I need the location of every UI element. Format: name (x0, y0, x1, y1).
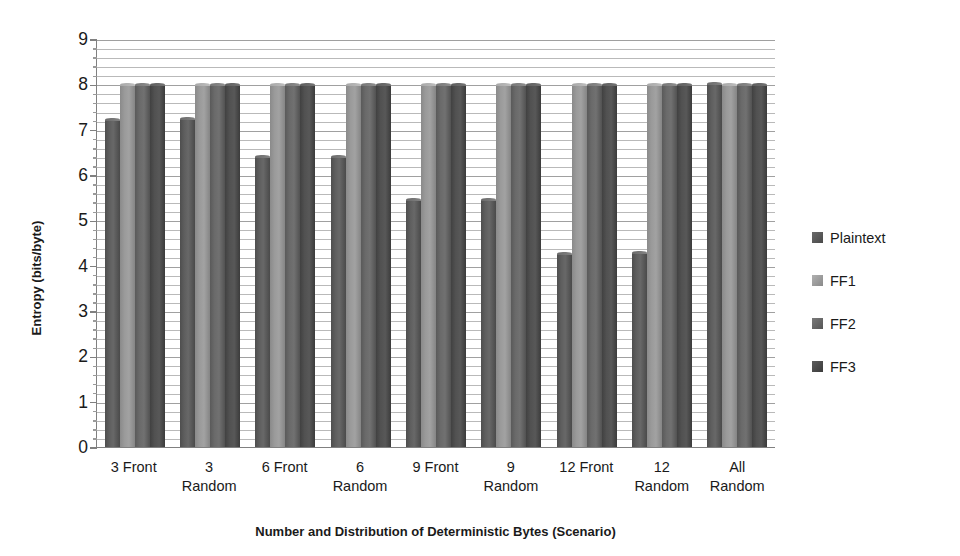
y-tick-minor (93, 384, 97, 386)
bar-group (549, 40, 624, 447)
bar[interactable] (451, 83, 466, 447)
legend-item[interactable]: FF1 (812, 259, 886, 302)
bar[interactable] (511, 83, 526, 447)
bar[interactable] (150, 83, 165, 447)
y-tick-minor (93, 212, 97, 214)
bar-face (421, 86, 436, 447)
bar[interactable] (647, 83, 662, 447)
bar-face (406, 201, 421, 447)
y-tick-major (90, 402, 97, 404)
x-tick-label: 3 Front (96, 452, 171, 508)
bar-face (195, 86, 210, 447)
bar[interactable] (632, 251, 647, 447)
bar-group-bars (549, 40, 624, 447)
y-tick-major (90, 175, 97, 177)
y-tick-label: 2 (78, 346, 88, 367)
bar[interactable] (572, 83, 587, 447)
bar-group (624, 40, 699, 447)
entropy-bar-chart: Entropy (bits/byte) 0123456789 3 Front3R… (0, 0, 960, 556)
bar[interactable] (361, 83, 376, 447)
y-tick-minor (93, 148, 97, 150)
y-tick-label: 6 (78, 165, 88, 186)
bar[interactable] (210, 83, 225, 447)
y-tick-minor (93, 320, 97, 322)
bar[interactable] (135, 83, 150, 447)
x-tick-label: 6 Front (247, 452, 322, 508)
x-tick-label-line1: 3 (205, 459, 213, 475)
bar[interactable] (707, 82, 722, 447)
bar-face (270, 86, 285, 447)
y-tick-minor (93, 66, 97, 68)
bar[interactable] (557, 252, 572, 447)
chart-legend: PlaintextFF1FF2FF3 (812, 216, 886, 388)
x-tick-label: 9 Front (398, 452, 473, 508)
bar-face (376, 86, 391, 447)
bar[interactable] (225, 83, 240, 447)
x-tick-label-line1: 3 Front (111, 459, 157, 475)
x-tick-label-line1: 9 Front (413, 459, 459, 475)
bar[interactable] (120, 83, 135, 447)
x-tick-label-line1: 9 (507, 459, 515, 475)
legend-item[interactable]: FF3 (812, 345, 886, 388)
bar-face (331, 158, 346, 447)
bar[interactable] (285, 83, 300, 447)
y-axis-title: Entropy (bits/byte) (29, 221, 44, 336)
bar-face (722, 86, 737, 447)
bar-group (474, 40, 549, 447)
bar[interactable] (587, 83, 602, 447)
y-tick-minor (93, 112, 97, 114)
y-tick-minor (93, 248, 97, 250)
bar[interactable] (481, 198, 496, 447)
y-tick-minor (93, 193, 97, 195)
bar-group (700, 40, 775, 447)
x-tick-label-line1: 6 Front (262, 459, 308, 475)
y-tick-minor (93, 230, 97, 232)
bar[interactable] (752, 83, 767, 447)
bar-group-bars (323, 40, 398, 447)
bar[interactable] (406, 198, 421, 447)
y-tick-minor (93, 257, 97, 259)
bar[interactable] (195, 83, 210, 447)
bar[interactable] (436, 83, 451, 447)
bar[interactable] (180, 117, 195, 447)
bar-face (602, 86, 617, 447)
bar[interactable] (602, 83, 617, 447)
bar-face (752, 86, 767, 447)
legend-label: FF2 (830, 316, 856, 332)
x-tick-label-line2: Random (624, 477, 699, 496)
bar-group-bars (172, 40, 247, 447)
bar-group-bars (474, 40, 549, 447)
y-tick-major (90, 221, 97, 223)
y-tick-label: 3 (78, 301, 88, 322)
x-tick-label-line2: Random (171, 477, 246, 496)
x-tick-label-line2: Random (322, 477, 397, 496)
bar-face (225, 86, 240, 447)
bar[interactable] (421, 83, 436, 447)
bar[interactable] (300, 83, 315, 447)
bar[interactable] (722, 83, 737, 447)
bar-face (150, 86, 165, 447)
bar-group-bars (700, 40, 775, 447)
legend-label: FF1 (830, 273, 856, 289)
bar[interactable] (331, 155, 346, 447)
bar-face (557, 255, 572, 447)
y-tick-minor (93, 393, 97, 395)
bar[interactable] (737, 83, 752, 447)
x-tick-label-line1: 6 (356, 459, 364, 475)
y-tick-minor (93, 239, 97, 241)
y-tick-minor (93, 48, 97, 50)
legend-item[interactable]: FF2 (812, 302, 886, 345)
bar[interactable] (662, 83, 677, 447)
bar[interactable] (270, 83, 285, 447)
bar-group (248, 40, 323, 447)
y-tick-minor (93, 420, 97, 422)
bar[interactable] (496, 83, 511, 447)
bar[interactable] (376, 83, 391, 447)
bar[interactable] (255, 155, 270, 447)
bar[interactable] (526, 83, 541, 447)
bar[interactable] (105, 118, 120, 447)
bar[interactable] (677, 83, 692, 447)
bar[interactable] (346, 83, 361, 447)
y-tick-major (90, 39, 97, 41)
legend-item[interactable]: Plaintext (812, 216, 886, 259)
